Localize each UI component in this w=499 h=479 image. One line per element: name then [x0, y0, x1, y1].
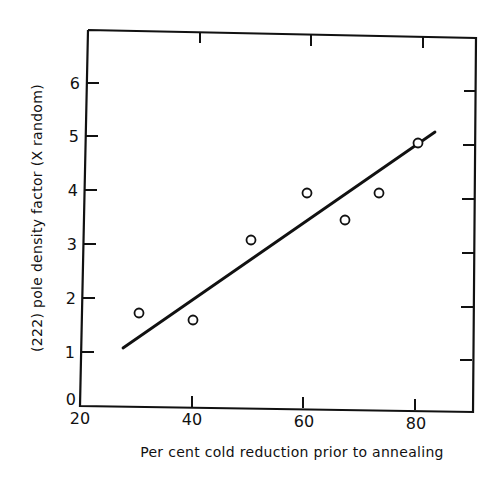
data-point: [247, 236, 256, 245]
x-axis-title: Per cent cold reduction prior to anneali…: [140, 444, 444, 460]
y-tick-5: 5: [69, 127, 79, 146]
fit-line: [123, 132, 435, 348]
y-tick-2: 2: [66, 289, 76, 308]
data-point: [341, 216, 350, 225]
y-tick-0: 0: [66, 390, 76, 409]
x-tick-labels: 20 40 60 80: [70, 409, 426, 433]
y-tick-labels: 6 5 4 3 2 1 0: [65, 74, 80, 409]
data-points: [135, 139, 423, 325]
data-point: [135, 309, 144, 318]
y-tick-3: 3: [67, 235, 77, 254]
chart-canvas: 6 5 4 3 2 1 0 20 40 60 80 Per cent cold …: [0, 0, 499, 479]
y-tick-1: 1: [65, 343, 75, 362]
y-tick-6: 6: [70, 74, 80, 93]
data-point: [189, 316, 198, 325]
data-point: [375, 189, 384, 198]
x-tick-80: 80: [406, 414, 426, 433]
data-point: [414, 139, 423, 148]
data-point: [303, 189, 312, 198]
y-axis-title: (222) pole density factor (X random): [29, 84, 45, 352]
plot-frame: [80, 30, 476, 412]
x-tick-20: 20: [70, 409, 90, 428]
x-tick-60: 60: [294, 412, 314, 431]
y-tick-4: 4: [68, 181, 78, 200]
x-tick-40: 40: [182, 410, 202, 429]
